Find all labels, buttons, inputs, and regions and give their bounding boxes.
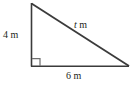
right-angle-square [32, 59, 40, 66]
right-triangle-figure: 4 m t m 6 m [0, 0, 138, 86]
hypotenuse-variable: t [74, 19, 77, 30]
vertical-leg-label: 4 m [3, 29, 18, 40]
hypotenuse-line [32, 4, 130, 67]
hypotenuse-label: t m [74, 19, 87, 30]
hypotenuse-unit: m [79, 19, 87, 30]
horizontal-leg-label: 6 m [66, 70, 81, 81]
